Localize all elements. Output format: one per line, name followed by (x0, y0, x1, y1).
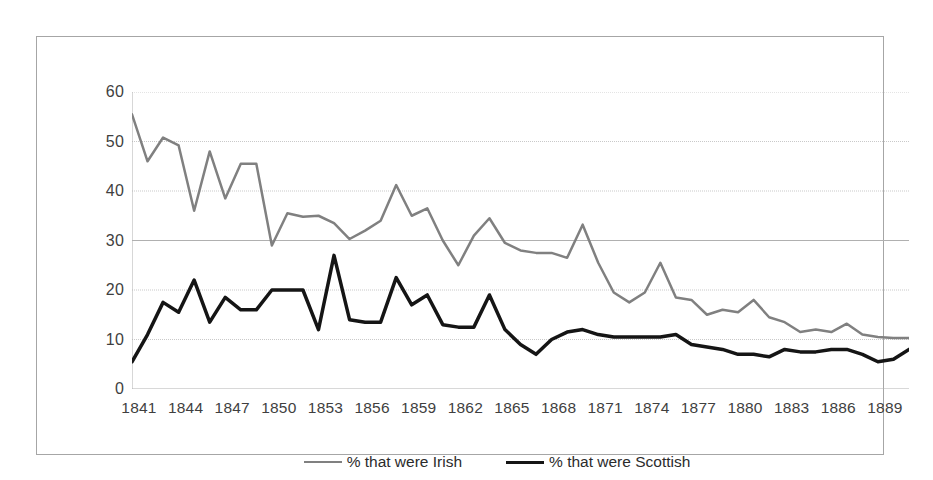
x-tick-label: 1862 (448, 399, 483, 417)
plot-svg (132, 92, 909, 389)
chart-container: 0102030405060 18411844184718501853185618… (0, 0, 933, 480)
x-tick-label: 1880 (727, 399, 762, 417)
x-tick-label: 1841 (121, 399, 156, 417)
plot-area (132, 92, 909, 389)
y-tick-label: 60 (78, 84, 124, 100)
x-tick-label: 1859 (401, 399, 436, 417)
legend-label-irish: % that were Irish (347, 453, 462, 471)
y-axis-tick-labels: 0102030405060 (76, 92, 124, 389)
legend-item-irish: % that were Irish (304, 453, 462, 471)
chart-legend: % that were Irish % that were Scottish (73, 447, 921, 477)
x-axis-tick-labels: 1841184418471850185318561859186218651868… (132, 399, 909, 425)
x-tick-label: 1871 (588, 399, 623, 417)
y-tick-label: 20 (78, 282, 124, 298)
x-tick-label: 1886 (821, 399, 856, 417)
legend-line-icon-scottish (506, 461, 544, 464)
x-tick-label: 1883 (774, 399, 809, 417)
y-tick-label: 30 (78, 233, 124, 249)
y-tick-label: 50 (78, 134, 124, 150)
x-tick-label: 1865 (494, 399, 529, 417)
x-tick-label: 1856 (354, 399, 389, 417)
y-tick-label: 40 (78, 183, 124, 199)
x-tick-label: 1877 (681, 399, 716, 417)
x-tick-label: 1853 (308, 399, 343, 417)
legend-line-icon-irish (304, 461, 342, 463)
y-tick-label: 10 (78, 332, 124, 348)
x-tick-label: 1850 (261, 399, 296, 417)
x-tick-label: 1868 (541, 399, 576, 417)
x-tick-label: 1844 (168, 399, 203, 417)
x-tick-label: 1847 (215, 399, 250, 417)
y-tick-label: 0 (78, 381, 124, 397)
legend-item-scottish: % that were Scottish (506, 453, 690, 471)
legend-label-scottish: % that were Scottish (549, 453, 690, 471)
series-line-scottish (132, 255, 909, 361)
chart-frame: 0102030405060 18411844184718501853185618… (36, 36, 884, 455)
x-tick-label: 1874 (634, 399, 669, 417)
series-line-irish (132, 114, 909, 338)
x-tick-label: 1889 (867, 399, 902, 417)
